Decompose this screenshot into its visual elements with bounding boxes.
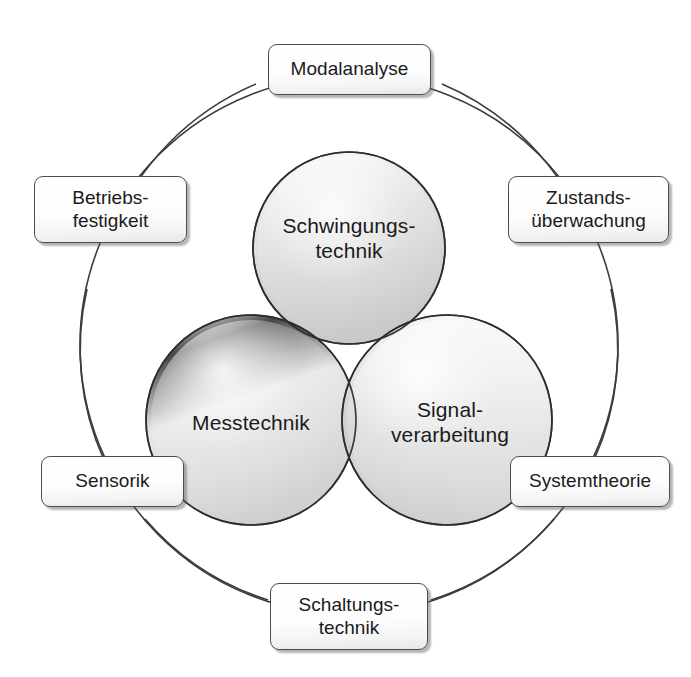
node-box-betriebsfestigkeit[interactable]: Betriebs- festigkeit bbox=[34, 176, 187, 243]
connector-systemtheorie-zustandsueberwachung bbox=[594, 289, 618, 460]
node-box-sensorik[interactable]: Sensorik bbox=[41, 456, 184, 507]
node-box-zustandsueberwachung[interactable]: Zustands- überwachung bbox=[508, 176, 669, 243]
node-box-schaltungstechnik[interactable]: Schaltungs- technik bbox=[270, 583, 428, 650]
venn-group bbox=[146, 152, 552, 525]
node-label-modalanalyse: Modalanalyse bbox=[291, 58, 409, 80]
node-box-modalanalyse[interactable]: Modalanalyse bbox=[268, 44, 431, 95]
node-label-sensorik: Sensorik bbox=[75, 470, 149, 492]
connector-schaltungstechnik-systemtheorie bbox=[431, 519, 554, 600]
node-label-zustandsueberwachung: Zustands- überwachung bbox=[531, 187, 646, 231]
diagram-canvas bbox=[0, 0, 691, 677]
node-label-systemtheorie: Systemtheorie bbox=[529, 470, 651, 492]
node-label-betriebsfestigkeit: Betriebs- festigkeit bbox=[72, 187, 148, 231]
node-box-systemtheorie[interactable]: Systemtheorie bbox=[510, 456, 670, 507]
connector-sensorik-schaltungstechnik bbox=[145, 519, 268, 600]
connector-betriebsfestigkeit-sensorik bbox=[80, 289, 104, 460]
venn-circle-schwingungstechnik bbox=[253, 152, 445, 344]
venn-diagram: Schwingungs- technik Messtechnik Signal-… bbox=[0, 0, 691, 677]
node-label-schaltungstechnik: Schaltungs- technik bbox=[299, 594, 400, 638]
